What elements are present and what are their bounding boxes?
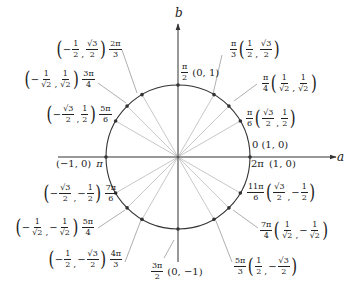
leader-line: [216, 221, 232, 262]
label-pi-6: π6 ( √32 , 12 ): [245, 109, 296, 128]
leader-line: [233, 210, 258, 228]
angle-fraction: π2: [181, 63, 188, 82]
label-pi-3: π3 ( 12 , √32 ): [229, 40, 280, 59]
angle-text: 2π: [251, 159, 264, 169]
circle-point: [212, 93, 216, 97]
unit-circle-diagram: a b 0 (1, 0) 2π (1, 0) π6 ( √32 , 12 ) π…: [0, 0, 355, 296]
angle-fraction: 2π3: [109, 40, 121, 59]
label-pi-4: π4 ( 1√2 , 1√2 ): [261, 74, 317, 93]
label-pi: (−1, 0) π: [56, 159, 103, 169]
angle-fraction: π3: [230, 40, 237, 59]
label-pi-2: π2 (0, 1): [180, 63, 219, 82]
label-3pi-2: 3π2 (0, −1): [150, 262, 203, 281]
angle-text: 0: [252, 140, 258, 150]
coord-text: (0, −1): [167, 267, 202, 277]
circle-point: [227, 206, 231, 210]
axis-label-b: b: [175, 6, 183, 20]
leader-line: [98, 210, 125, 228]
leader-line: [125, 220, 141, 262]
coord-text: (0, 1): [192, 68, 219, 78]
angle-fraction: 5π3: [234, 257, 246, 276]
leader-line: [164, 240, 174, 258]
angle-fraction: 7π4: [260, 221, 272, 240]
label-5pi-6: ( − √32 , 12 ) 5π6: [46, 105, 113, 124]
angle-fraction: 5π6: [99, 105, 111, 124]
circle-point: [239, 119, 243, 123]
label-7pi-4: 7π4 ( 1√2 , − 1√2 ): [259, 221, 329, 240]
angle-fraction: 3π2: [151, 262, 163, 281]
angle-fraction: 3π4: [82, 70, 94, 89]
leader-line: [122, 50, 137, 93]
coord-text: (−1, 0): [56, 159, 91, 169]
circle-point: [140, 218, 144, 222]
label-2pi: 2π (1, 0): [251, 159, 296, 169]
angle-fraction: π4: [262, 74, 269, 93]
angle-fraction: π6: [246, 109, 253, 128]
label-2pi-3: ( − 12 , √32 ) 2π3: [56, 40, 123, 59]
angle-fraction: 4π3: [110, 250, 122, 269]
coord-text: (1, 0): [269, 159, 296, 169]
angle-text: π: [96, 159, 103, 169]
circle-point: [104, 155, 108, 159]
label-5pi-3: 5π3 ( 12 , − √32 ): [233, 257, 298, 276]
angle-fraction: 7π6: [105, 184, 117, 203]
circle-point: [125, 206, 129, 210]
label-4pi-3: ( − 12 , − √32 ) 4π3: [48, 250, 123, 269]
circle-point: [114, 119, 118, 123]
leader-line: [234, 84, 257, 101]
leader-line: [98, 83, 126, 103]
circle-point: [176, 227, 180, 231]
label-0: 0 (1, 0): [252, 140, 288, 150]
circle-point: [212, 218, 216, 222]
angle-fraction: 11π6: [247, 183, 264, 202]
circle-point: [125, 104, 129, 108]
label-11pi-6: 11π6 ( √32 , − 12 ): [246, 183, 316, 202]
circle-point: [176, 83, 180, 87]
circle-point: [140, 93, 144, 97]
axis-label-a: a: [337, 150, 344, 164]
label-7pi-6: ( − √32 , − 12 ) 7π6: [43, 184, 118, 203]
circle-point: [239, 191, 243, 195]
label-3pi-4: ( − 1√2 , 1√2 ) 3π4: [24, 70, 96, 89]
angle-fraction: 5π4: [82, 218, 94, 237]
label-5pi-4: ( − 1√2 , − 1√2 ) 5π4: [15, 218, 95, 237]
coord-text: (1, 0): [261, 140, 288, 150]
circle-point: [227, 104, 231, 108]
